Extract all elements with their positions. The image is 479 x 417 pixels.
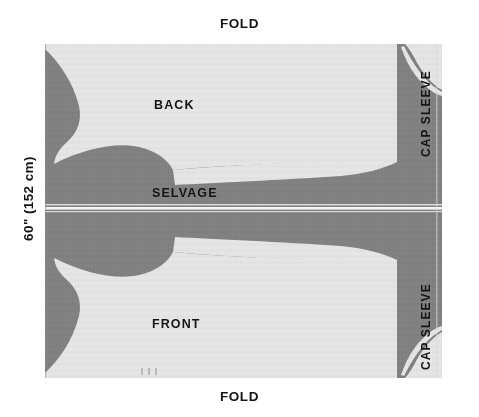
selvage-label: SELVAGE (152, 186, 218, 200)
fabric-rectangle (45, 44, 442, 378)
piece-label-cap-sleeve-top: CAP SLEEVE (419, 70, 433, 157)
notch-mark (155, 368, 157, 375)
fold-label-bottom: FOLD (0, 389, 479, 404)
right-selvage-edge (436, 44, 438, 378)
notch-marks (141, 368, 157, 375)
fold-label-top: FOLD (0, 16, 479, 31)
piece-label-front: FRONT (152, 317, 201, 331)
selvage-line-lower (45, 211, 442, 212)
notch-mark (148, 368, 150, 375)
fabric-width-label: 60" (152 cm) (21, 119, 36, 279)
pattern-pieces-svg (45, 44, 442, 378)
left-fold-edge (45, 44, 46, 378)
selvage-line-upper (45, 204, 442, 205)
piece-label-back: BACK (154, 98, 195, 112)
notch-mark (141, 368, 143, 375)
selvage-line-middle (45, 207, 442, 210)
piece-label-cap-sleeve-bottom: CAP SLEEVE (419, 283, 433, 370)
cutting-layout-diagram: FOLD 60" (152 cm) (0, 0, 479, 417)
